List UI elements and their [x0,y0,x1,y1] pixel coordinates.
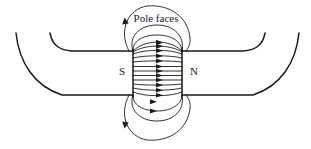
fringe-arc-mid-bottom [132,95,183,121]
left-magnet-body [16,33,133,97]
field-arrow-head [156,88,163,93]
north-pole-label: N [190,65,198,77]
field-arrow-head [156,69,163,74]
field-arrow-head [156,64,163,69]
fringe-arrow-head-down [122,122,129,129]
fringe-arrow-head-bottom-inner [150,99,157,104]
field-arrow-head [156,54,163,59]
right-outer-arm [182,33,299,95]
pole-faces-label: Pole faces [134,12,179,24]
right-magnet-body [182,33,299,97]
bottom-fringe-field [122,95,190,140]
field-arrow-head [156,93,163,98]
fringe-arrow-head-up [122,17,129,24]
fringe-arc-inner-bottom [133,95,182,111]
magnetic-field-diagram: Pole faces S N [0,0,311,149]
uniform-field-lines [133,40,182,98]
field-arrow-head [156,73,163,78]
field-arrow-head [156,83,163,88]
left-outer-arm [16,33,133,95]
field-arrow-head [156,44,163,49]
diagram-canvas: Pole faces S N [0,0,311,149]
field-arrow-head [156,78,163,83]
field-arrow-head [156,59,163,64]
right-inner-arm [182,33,265,51]
south-pole-label: S [119,65,125,77]
field-arrow-head [156,48,163,53]
left-inner-arm [50,33,133,51]
